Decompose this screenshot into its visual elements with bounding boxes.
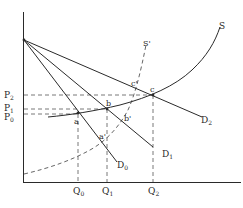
equilibrium-points: [23, 39, 155, 115]
supply-curve-s: [48, 27, 220, 117]
label-d0: D0: [117, 160, 128, 171]
label-p2: P2: [4, 90, 14, 101]
label-q0: Q0: [73, 186, 84, 197]
point-a-prime: a': [99, 132, 106, 141]
demand-curve-d1: [24, 40, 153, 147]
point-a: a: [74, 117, 79, 126]
point-b: b: [106, 99, 111, 108]
demand-curve-d0: [24, 40, 117, 162]
label-s: S: [219, 21, 225, 31]
label-d1: D1: [162, 149, 173, 160]
demand-curve-d2: [24, 40, 202, 117]
label-q1: Q1: [102, 186, 113, 197]
label-q2: Q2: [148, 186, 159, 197]
point-c-prime: c': [131, 79, 138, 88]
quantity-guides: [78, 95, 153, 182]
label-d2: D2: [201, 115, 212, 126]
point-c: c: [150, 85, 155, 94]
point-b-prime: b': [124, 114, 131, 123]
label-s-prime: S': [143, 39, 151, 48]
supply-demand-diagram: S S' D2 D1 D0 P2 P1 P0 Q0 Q1 Q2 a b c a'…: [0, 0, 243, 208]
